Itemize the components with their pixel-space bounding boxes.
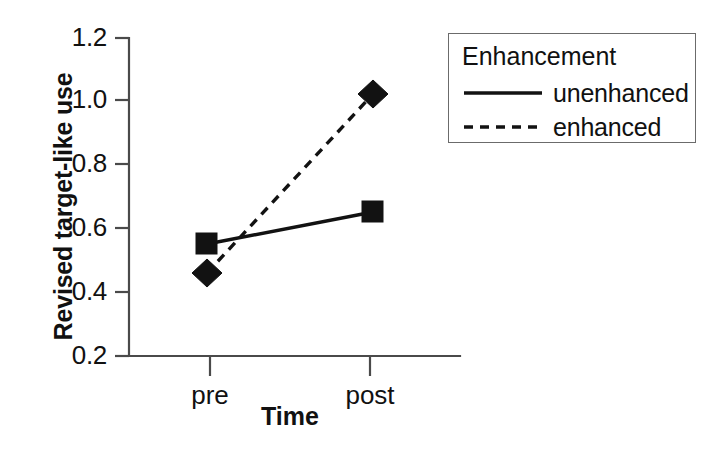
legend-label-enhanced: enhanced (553, 113, 661, 142)
legend-swatch-solid-line-icon (462, 83, 544, 103)
series-line-unenhanced (207, 212, 373, 244)
legend-entry-unenhanced: unenhanced (462, 76, 689, 110)
marker-enhanced-pre (192, 259, 222, 287)
x-axis-title: Time (180, 402, 400, 431)
legend-entry-enhanced: enhanced (462, 110, 661, 144)
legend-swatch-dashed-line-icon (462, 117, 544, 137)
chart-figure: 1.2 1.0 0.8 0.6 0.4 0.2 pre post Revised… (0, 0, 713, 455)
marker-unenhanced-pre (196, 233, 217, 254)
legend-label-unenhanced: unenhanced (553, 79, 689, 108)
y-tick-label-1.2: 1.2 (45, 22, 107, 53)
legend-box: Enhancement unenhanced enhanced (448, 33, 696, 143)
legend-title: Enhancement (462, 42, 616, 71)
series-line-enhanced (207, 94, 373, 273)
y-axis-title: Revised target-like use (49, 67, 78, 347)
marker-unenhanced-post (362, 201, 383, 222)
